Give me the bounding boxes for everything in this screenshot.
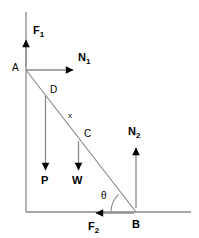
ladder-line-ab	[26, 70, 136, 212]
force-label-n2: N2	[128, 126, 140, 140]
point-label-a: A	[12, 63, 19, 73]
angle-arc-theta	[111, 194, 119, 212]
free-body-diagram: F1 N1 A D x C N2 P W θ F2 B	[0, 0, 199, 238]
point-label-b: B	[132, 219, 140, 230]
segment-label-x: x	[68, 112, 72, 120]
angle-label-theta: θ	[101, 191, 107, 201]
force-label-f1: F1	[33, 25, 44, 39]
force-label-n1: N1	[78, 52, 90, 66]
force-label-f2: F2	[88, 221, 99, 235]
point-label-d: D	[50, 85, 57, 95]
diagram-canvas	[0, 0, 199, 238]
force-label-w: W	[72, 175, 82, 186]
force-label-p: P	[41, 175, 48, 186]
point-label-c: C	[84, 129, 91, 139]
